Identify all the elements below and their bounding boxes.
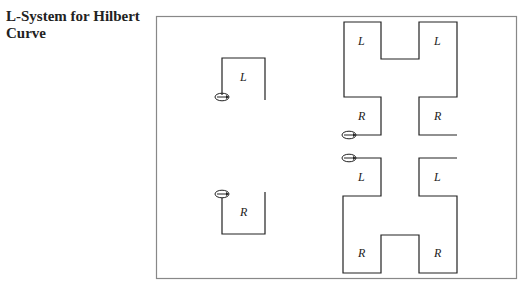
start-marker-icon [342,154,356,162]
label-lower-mid-left: L [357,170,365,184]
label-top-right: L [433,34,441,48]
label-upper-mid-left: R [357,109,366,123]
diagram-frame [157,17,517,279]
label-bottom-right: R [433,246,442,260]
label-upper-mid-right: R [433,109,442,123]
start-marker-icon [215,190,229,198]
label-single-L: L [239,70,247,84]
start-marker-icon [342,131,356,139]
label-single-R: R [239,205,248,219]
label-bottom-left: R [357,246,366,260]
label-top-left: L [357,34,365,48]
hilbert-diagram: L R L L R R L L R R [0,0,532,293]
label-lower-mid-right: L [433,170,441,184]
